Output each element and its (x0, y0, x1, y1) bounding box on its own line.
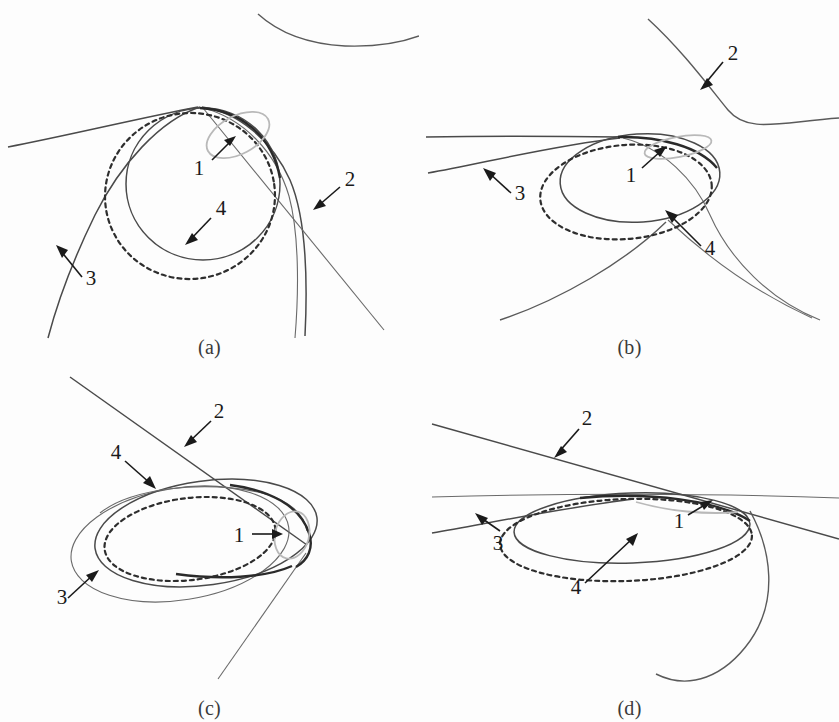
panel-a-drawing: 1 2 3 4 (0, 0, 419, 361)
curve-right-descending (623, 138, 820, 320)
curve-top-branch (258, 14, 419, 46)
curve-3-line (432, 499, 634, 533)
arc-rim-inner (100, 487, 307, 531)
panel-b-drawing: 1 2 3 4 (420, 0, 839, 361)
leader-line-4 (670, 215, 701, 246)
label-1: 1 (626, 163, 637, 187)
label-4: 4 (216, 196, 227, 220)
panel-d: 1 2 3 4 (d) (420, 361, 839, 722)
panel-b: 1 2 3 4 (b) (420, 0, 839, 361)
label-2: 2 (214, 399, 225, 423)
label-3: 3 (86, 266, 97, 290)
curve-secondary-right (203, 108, 297, 338)
label-2: 2 (728, 41, 739, 65)
label-3: 3 (57, 585, 68, 609)
panel-d-caption: (d) (420, 697, 839, 720)
panel-d-drawing: 1 2 3 4 (420, 361, 839, 722)
label-4: 4 (705, 236, 716, 260)
curve-horizontal-tangent (426, 136, 620, 137)
label-1: 1 (234, 523, 245, 547)
arrowhead-1 (272, 529, 283, 539)
ellipse-4-solid (513, 489, 751, 567)
leader-line-4 (585, 539, 632, 583)
label-3: 3 (515, 181, 526, 205)
arrowhead-3 (56, 245, 68, 258)
figure-root: 1 2 3 4 (a) (0, 0, 839, 722)
label-2: 2 (582, 406, 593, 430)
curve-2-branch (648, 19, 839, 125)
panel-a-caption: (a) (0, 336, 419, 359)
arrowhead-3 (483, 168, 496, 181)
label-2: 2 (345, 167, 356, 191)
label-1: 1 (194, 156, 205, 180)
label-4: 4 (111, 440, 122, 464)
panel-c: 1 2 3 4 (c) (0, 361, 419, 722)
ellipse-dashed (499, 495, 754, 586)
panel-a: 1 2 3 4 (a) (0, 0, 419, 361)
arrowhead-2 (554, 446, 567, 458)
panel-c-caption: (c) (0, 697, 419, 720)
label-4: 4 (571, 575, 582, 599)
arrowhead-1 (224, 136, 236, 146)
curve-3-sweep (428, 138, 620, 173)
curve-3-outer-left (48, 107, 200, 338)
arrowhead-4 (626, 533, 638, 546)
panel-b-caption: (b) (420, 336, 839, 359)
label-3: 3 (493, 531, 504, 555)
curve-left-tangent (8, 107, 198, 147)
label-1: 1 (674, 509, 685, 533)
arc-bold-lower-right (176, 566, 292, 577)
panel-c-drawing: 1 2 3 4 (0, 361, 419, 722)
